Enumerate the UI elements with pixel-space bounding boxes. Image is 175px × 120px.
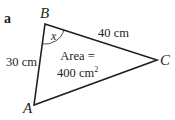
- vertex-label-c: C: [160, 53, 170, 68]
- area-label: Area = 400 cm2: [57, 49, 98, 81]
- area-label-line2: 400 cm2: [57, 65, 98, 82]
- vertex-label-b: B: [40, 6, 49, 21]
- area-value: 400 cm: [57, 66, 94, 80]
- part-label: a: [4, 12, 11, 26]
- side-label-ab: 30 cm: [6, 56, 37, 69]
- angle-label-x: x: [51, 30, 56, 42]
- area-exponent: 2: [94, 65, 98, 74]
- side-label-bc: 40 cm: [98, 27, 129, 40]
- vertex-label-a: A: [23, 101, 32, 116]
- area-label-line1: Area =: [57, 49, 98, 65]
